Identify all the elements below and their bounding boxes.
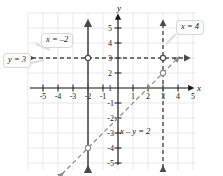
y-tick-label: 5 [108,24,112,33]
callout-x-equals-neg2: x = –2 [41,33,73,48]
y-tick-label: -4 [107,144,114,153]
y-tick-label: 2 [108,69,112,78]
label-line-equation: x – y = 2 [120,126,150,136]
line-equation-text: x – y = 2 [120,126,150,136]
y-tick-label: -1 [107,99,114,108]
callout-label: y = 3 [8,54,26,64]
x-tick-label: 1 [131,92,135,101]
x-tick-labels: -5 -4 -3 -2 -1 1 2 3 4 5 [40,92,195,101]
x-tick-label: 2 [146,92,150,101]
y-axis-label: y [116,3,121,13]
open-point [85,55,90,60]
x-tick-label: -1 [100,92,107,101]
x-tick-label: -4 [55,92,62,101]
callout-y-equals-3: y = 3 [3,53,31,68]
open-point [160,55,165,60]
x-axis-label: x [196,83,201,93]
callout-label: x = 4 [181,21,199,31]
callout-x-equals-4: x = 4 [176,20,204,35]
y-tick-label: -5 [107,159,114,168]
y-tick-label: 1 [108,84,112,93]
coordinate-graph-figure: -5 -4 -3 -2 -1 1 2 3 4 5 5 4 3 2 1 -1 -2… [0,0,223,176]
open-point [160,70,165,75]
x-tick-label: 5 [191,92,195,101]
tick-marks [43,28,178,163]
x-tick-label: 4 [176,92,180,101]
line-x-minus-y-equals-2 [62,58,178,174]
callout-label: x = –2 [46,34,68,44]
y-tick-label: 4 [108,39,112,48]
open-point [85,145,90,150]
y-tick-label: -2 [107,114,114,123]
y-tick-label: -3 [107,129,114,138]
y-tick-labels: 5 4 3 2 1 -1 -2 -3 -4 -5 [107,24,114,168]
x-tick-label: -3 [70,92,77,101]
x-tick-label: -5 [40,92,47,101]
